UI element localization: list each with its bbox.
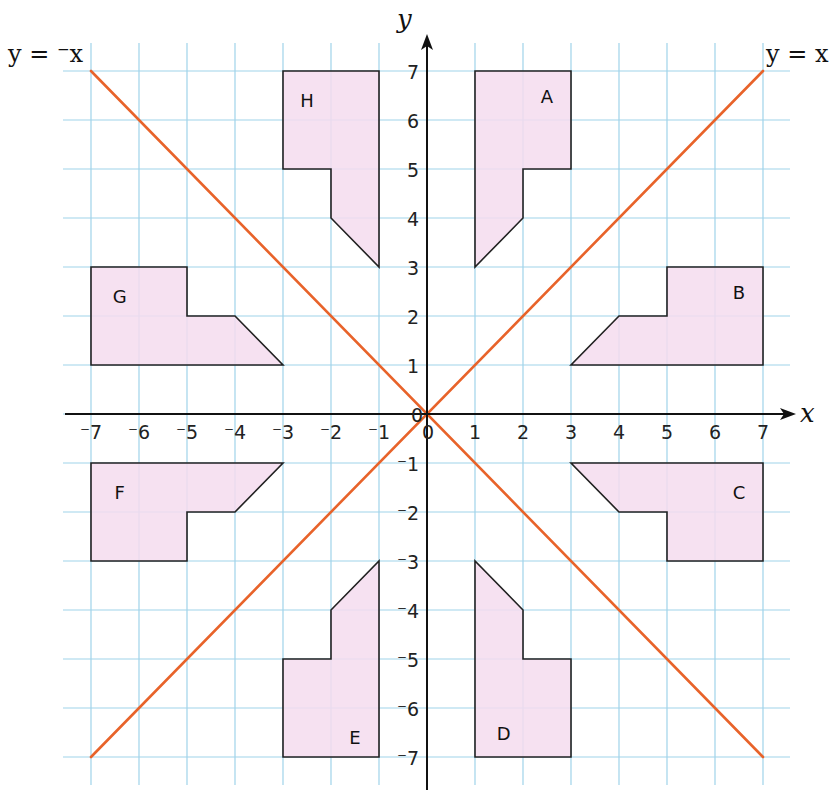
x-tick-label: 4 [613, 421, 625, 443]
y-axis-label: y [396, 4, 412, 34]
x-tick-label: 5 [661, 421, 673, 443]
y-tick-label: 6 [407, 110, 419, 132]
line-label-y-equals-neg-x: y = ⁻x [7, 40, 84, 68]
x-axis-label: x [800, 398, 815, 428]
x-tick-label: ⁻7 [80, 421, 102, 443]
x-tick-label: 1 [469, 421, 481, 443]
y-tick-label: ⁻4 [397, 600, 419, 622]
y-tick-label: ⁻5 [397, 649, 419, 671]
y-tick-label: 3 [407, 257, 419, 279]
y-tick-label: ⁻2 [397, 502, 419, 524]
coordinate-plane: ABCDEFGH ⁻7⁻6⁻5⁻4⁻3⁻2⁻101234567⁻7⁻6⁻5⁻4⁻… [0, 0, 831, 802]
x-tick-label: ⁻2 [320, 421, 342, 443]
y-tick-label: 7 [407, 61, 419, 83]
x-tick-label: 3 [565, 421, 577, 443]
shape-label: B [733, 282, 745, 303]
y-tick-label: ⁻3 [397, 551, 419, 573]
y-tick-label: 0 [411, 404, 423, 426]
x-tick-label: ⁻5 [176, 421, 198, 443]
x-tick-label: ⁻6 [128, 421, 150, 443]
x-tick-label: 6 [709, 421, 721, 443]
coordinate-diagram: ABCDEFGH ⁻7⁻6⁻5⁻4⁻3⁻2⁻101234567⁻7⁻6⁻5⁻4⁻… [0, 0, 831, 802]
shape-label: E [349, 727, 360, 748]
x-tick-label: 2 [517, 421, 529, 443]
y-tick-label: 2 [407, 306, 419, 328]
y-tick-label: ⁻1 [397, 453, 419, 475]
y-tick-label: ⁻6 [397, 698, 419, 720]
x-tick-label: ⁻1 [368, 421, 390, 443]
y-tick-label: 5 [407, 159, 419, 181]
x-tick-label: ⁻3 [272, 421, 294, 443]
shape-label: F [115, 482, 125, 503]
shape-label: H [300, 90, 314, 111]
shape-label: G [113, 286, 127, 307]
x-tick-label: 7 [757, 421, 769, 443]
x-tick-label: ⁻4 [224, 421, 246, 443]
y-tick-label: 4 [407, 208, 419, 230]
x-tick-label: 0 [422, 421, 434, 443]
y-tick-label: ⁻7 [397, 747, 419, 769]
shape-label: D [497, 723, 511, 744]
y-tick-label: 1 [407, 355, 419, 377]
line-label-y-equals-x: y = x [765, 40, 829, 68]
shape-label: C [733, 482, 746, 503]
shape-label: A [541, 86, 554, 107]
